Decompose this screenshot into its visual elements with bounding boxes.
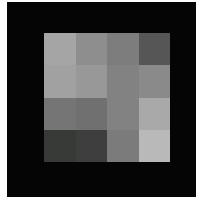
gray-patch-r3c3 [107, 98, 139, 130]
gray-patch-r3c2 [76, 98, 108, 130]
photo-canvas [0, 0, 204, 203]
gray-patch-r2c4 [139, 65, 171, 97]
gray-patch-r2c2 [76, 65, 108, 97]
gray-patch-r1c4 [139, 33, 171, 65]
gray-patch-r2c1 [44, 65, 76, 97]
gray-patch-r1c2 [76, 33, 108, 65]
gray-patch-r3c4 [139, 98, 171, 130]
black-background-field [7, 2, 196, 197]
grayscale-patch-grid [44, 33, 170, 162]
gray-patch-r4c3 [107, 130, 139, 162]
gray-patch-r4c2 [76, 130, 108, 162]
gray-patch-r4c4 [139, 130, 171, 162]
gray-patch-r3c1 [44, 98, 76, 130]
gray-patch-r1c3 [107, 33, 139, 65]
gray-patch-r1c1 [44, 33, 76, 65]
gray-patch-r2c3 [107, 65, 139, 97]
gray-patch-r4c1 [44, 130, 76, 162]
